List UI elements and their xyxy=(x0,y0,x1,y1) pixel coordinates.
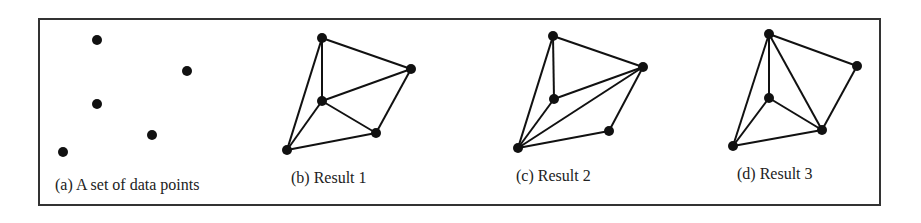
data-point xyxy=(92,35,102,45)
edge xyxy=(518,99,554,148)
edge xyxy=(769,34,822,130)
edge xyxy=(733,98,769,146)
edge xyxy=(287,133,376,150)
data-point xyxy=(147,130,157,140)
panel-caption: (d) Result 3 xyxy=(737,165,813,183)
edge xyxy=(822,66,857,130)
data-point xyxy=(764,29,774,39)
panel-caption: (a) A set of data points xyxy=(55,176,199,194)
panel-caption: (b) Result 1 xyxy=(291,169,367,187)
triangulation-figure: (a) A set of data points(b) Result 1(c) … xyxy=(0,0,921,223)
panel-a: (a) A set of data points xyxy=(55,35,199,194)
edge xyxy=(322,101,376,133)
data-point xyxy=(282,145,292,155)
data-point xyxy=(58,147,68,157)
edge xyxy=(376,69,411,133)
data-point xyxy=(817,125,827,135)
data-point xyxy=(604,126,614,136)
panel-c: (c) Result 2 xyxy=(513,31,648,185)
panel-b: (b) Result 1 xyxy=(282,33,416,187)
panel-caption: (c) Result 2 xyxy=(516,167,591,185)
edge xyxy=(733,130,822,146)
data-point xyxy=(638,62,648,72)
edge xyxy=(553,36,554,99)
data-point xyxy=(513,143,523,153)
panel-d: (d) Result 3 xyxy=(728,29,862,183)
edge xyxy=(553,36,643,67)
data-point xyxy=(406,64,416,74)
data-point xyxy=(852,61,862,71)
data-point xyxy=(371,128,381,138)
data-point xyxy=(548,31,558,41)
data-point xyxy=(182,66,192,76)
data-point xyxy=(764,93,774,103)
edge xyxy=(287,101,322,150)
edge xyxy=(733,34,769,146)
data-point xyxy=(728,141,738,151)
data-point xyxy=(549,94,559,104)
edge xyxy=(322,38,411,69)
data-point xyxy=(317,33,327,43)
data-point xyxy=(317,96,327,106)
edge xyxy=(287,38,322,150)
edge xyxy=(518,36,553,148)
data-point xyxy=(92,99,102,109)
edge xyxy=(322,69,411,101)
edge xyxy=(769,34,857,66)
